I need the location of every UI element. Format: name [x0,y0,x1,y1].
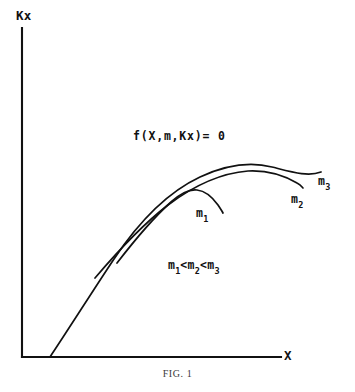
figure-container: Kx X f(X,m,Kx)= 0 m1<m2<m3 m1 m2 m3 FIG.… [0,0,355,392]
inequality-annotation: m1<m2<m3 [168,258,220,274]
inequality-m2-base: m [188,258,195,272]
inequality-m1-sub: 1 [175,266,180,276]
x-axis-label: X [284,348,292,363]
inequality-m2-sub: 2 [195,266,200,276]
curve-label-m3: m3 [318,174,330,190]
inequality-m3-sub: 3 [214,266,219,276]
curve-label-m2: m2 [291,192,303,208]
curve-label-m1-sub: 1 [203,214,208,224]
curve-label-m1: m1 [196,206,208,222]
inequality-lt-1: < [180,258,187,272]
equation-annotation: f(X,m,Kx)= 0 [133,129,226,143]
figure-caption: FIG. 1 [0,368,355,379]
curve-label-m3-sub: 3 [325,182,330,192]
curve-label-m2-sub: 2 [298,200,303,210]
figure-caption-number: 1 [187,368,193,379]
figure-caption-label: FIG. [163,368,184,379]
axes-group [22,28,281,357]
curve-m1 [117,190,223,263]
y-axis-label: Kx [16,8,32,23]
